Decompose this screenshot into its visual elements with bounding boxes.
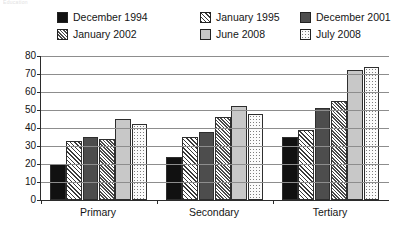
y-axis-tick-mark xyxy=(37,164,41,165)
x-axis-category-label: Primary xyxy=(80,206,116,218)
gridline xyxy=(41,146,389,147)
y-axis-tick-mark xyxy=(37,92,41,93)
y-axis-tick-label: 80 xyxy=(25,51,36,61)
gridline xyxy=(41,182,389,183)
legend-swatch-icon xyxy=(300,29,311,40)
plot-axes xyxy=(40,56,389,201)
legend-item-label: December 2001 xyxy=(316,12,391,23)
bar xyxy=(115,119,131,200)
bar xyxy=(315,108,331,200)
x-axis-tick-mark xyxy=(273,200,274,204)
legend-item[interactable]: July 2008 xyxy=(300,29,398,40)
legend-swatch-icon xyxy=(300,12,311,23)
bar xyxy=(248,114,264,200)
y-axis-tick-mark xyxy=(37,128,41,129)
bar xyxy=(364,67,380,200)
legend-swatch-icon xyxy=(57,12,68,23)
y-axis-tick-labels: 01020304050607080 xyxy=(14,52,36,200)
bar xyxy=(347,70,363,200)
legend-swatch-icon xyxy=(200,29,211,40)
x-axis-category-label: Tertiary xyxy=(313,206,347,218)
bar xyxy=(132,124,148,200)
legend-swatch-icon xyxy=(200,12,211,23)
y-axis-tick-mark xyxy=(37,56,41,57)
x-axis-category-label: Secondary xyxy=(189,206,239,218)
x-axis-tick-mark xyxy=(157,200,158,204)
plot-area-wrapper: 01020304050607080 PrimarySecondaryTertia… xyxy=(0,52,398,238)
bar xyxy=(66,141,82,200)
legend-item-label: December 1994 xyxy=(73,12,148,23)
y-axis-tick-mark xyxy=(37,110,41,111)
y-axis-tick-label: 40 xyxy=(25,123,36,133)
legend-item-label: January 2002 xyxy=(73,29,137,40)
legend-item[interactable]: December 1994 xyxy=(57,12,200,23)
clipped-header-remnant: Education xyxy=(3,0,113,5)
y-axis-tick-label: 20 xyxy=(25,159,36,169)
x-axis-category-labels: PrimarySecondaryTertiary xyxy=(40,206,388,226)
y-axis-tick-label: 60 xyxy=(25,87,36,97)
legend-item-label: July 2008 xyxy=(316,29,361,40)
bar-chart-figure: Education December 1994January 1995Decem… xyxy=(0,0,398,238)
y-axis-tick-label: 0 xyxy=(30,195,36,205)
chart-legend: December 1994January 1995December 2001Ja… xyxy=(57,9,387,43)
gridline xyxy=(41,164,389,165)
legend-swatch-icon xyxy=(57,29,68,40)
gridline xyxy=(41,128,389,129)
y-axis-tick-label: 10 xyxy=(25,177,36,187)
legend-item-label: June 2008 xyxy=(216,29,265,40)
y-axis-tick-mark xyxy=(37,74,41,75)
gridline xyxy=(41,74,389,75)
gridline xyxy=(41,56,389,57)
bar xyxy=(231,106,247,200)
legend-item-label: January 1995 xyxy=(216,12,280,23)
x-axis-tick-mark xyxy=(41,200,42,204)
y-axis-tick-label: 30 xyxy=(25,141,36,151)
y-axis-tick-label: 50 xyxy=(25,105,36,115)
legend-item[interactable]: January 1995 xyxy=(200,12,300,23)
legend-item[interactable]: January 2002 xyxy=(57,29,200,40)
legend-item[interactable]: June 2008 xyxy=(200,29,300,40)
gridline xyxy=(41,92,389,93)
y-axis-tick-mark xyxy=(37,146,41,147)
bar xyxy=(99,139,115,200)
y-axis-tick-label: 70 xyxy=(25,69,36,79)
y-axis-tick-mark xyxy=(37,182,41,183)
legend-item[interactable]: December 2001 xyxy=(300,12,398,23)
bar xyxy=(331,101,347,200)
gridline xyxy=(41,110,389,111)
bar xyxy=(215,117,231,200)
bar xyxy=(199,132,215,200)
